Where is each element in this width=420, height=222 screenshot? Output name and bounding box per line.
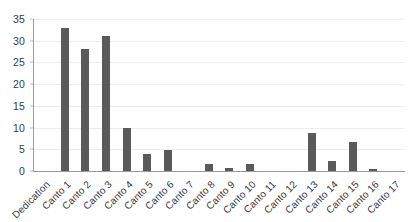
plot-area: 05101520253035 DedicationCanto 1Canto 2C…	[0, 0, 420, 222]
x-axis-tick-labels: DedicationCanto 1Canto 2Canto 3Canto 4Ca…	[0, 0, 420, 222]
bar-chart: 05101520253035 DedicationCanto 1Canto 2C…	[0, 0, 420, 222]
